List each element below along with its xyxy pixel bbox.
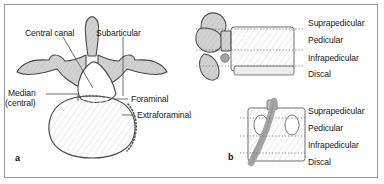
label-central-canal: Central canal xyxy=(25,28,74,38)
label-foraminal: Foraminal xyxy=(131,94,168,104)
label-subarticular: Subarticular xyxy=(96,28,141,38)
coronal-vertebra xyxy=(240,100,305,163)
nerve-root-sagittal xyxy=(221,54,229,62)
zone-label-suprapedicular-bottom: Suprapedicular xyxy=(308,106,364,116)
zone-label-infrapedicular-bottom: Infrapedicular xyxy=(308,140,359,150)
zone-label-pedicular-top: Pedicular xyxy=(308,35,343,45)
left-lamina-transverse-process xyxy=(17,55,86,88)
disc-sagittal xyxy=(234,66,294,75)
figure-root: Central canal Subarticular Median (centr… xyxy=(0,0,384,184)
panel-letter-a: a xyxy=(15,153,20,163)
vertebral-body-sagittal xyxy=(231,27,294,71)
inferior-articular-process xyxy=(200,54,219,80)
label-median-central: (central) xyxy=(5,99,36,109)
zone-label-discal-top: Discal xyxy=(308,69,331,79)
zone-label-suprapedicular-top: Suprapedicular xyxy=(308,18,364,28)
vertebral-body xyxy=(49,96,135,158)
pedicle-sagittal xyxy=(221,31,231,51)
sagittal-vertebra xyxy=(196,13,305,80)
panel-letter-b: b xyxy=(228,152,234,162)
zone-label-infrapedicular-top: Infrapedicular xyxy=(308,53,359,63)
label-extraforaminal: Extraforaminal xyxy=(137,110,191,120)
zone-label-pedicular-bottom: Pedicular xyxy=(308,123,343,133)
zone-label-discal-bottom: Discal xyxy=(308,157,331,167)
